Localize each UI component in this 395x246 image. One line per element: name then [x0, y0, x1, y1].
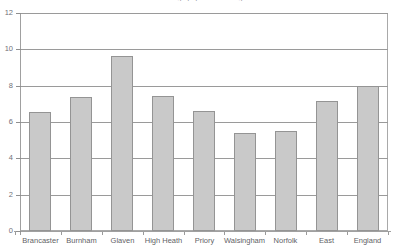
x-axis-tick	[306, 232, 307, 235]
x-axis-tick-label: Glaven	[102, 236, 143, 245]
bar	[275, 131, 297, 231]
bar	[29, 112, 51, 231]
bar	[316, 101, 338, 231]
bar	[111, 56, 133, 231]
gridline	[20, 13, 388, 14]
bar	[193, 111, 215, 231]
y-axis-tick	[16, 195, 21, 196]
x-axis-tick	[20, 232, 21, 235]
x-axis-tick	[102, 232, 103, 235]
x-axis-tick-label: Burnham	[61, 236, 102, 245]
y-axis-tick-label: 6	[0, 118, 13, 126]
y-axis-tick	[16, 122, 21, 123]
x-axis-tick-label: Walsingham	[224, 236, 265, 245]
x-axis-tick	[347, 232, 348, 235]
y-axis-tick-label: 4	[0, 154, 13, 162]
x-axis-tick	[184, 232, 185, 235]
y-axis-tick	[16, 13, 21, 14]
x-axis-tick-label: Priory	[184, 236, 225, 245]
y-axis-tick	[16, 49, 21, 50]
y-axis-tick-label: 12	[0, 9, 13, 17]
bar	[357, 86, 379, 231]
y-axis-tick-label: 8	[0, 82, 13, 90]
y-axis-tick-label: 2	[0, 191, 13, 199]
bar	[234, 133, 256, 231]
y-axis-tick	[16, 86, 21, 87]
x-axis-tick	[224, 232, 225, 235]
bar	[152, 96, 174, 231]
x-axis-tick-label: England	[347, 236, 388, 245]
gridline	[20, 49, 388, 50]
gridline	[20, 86, 388, 87]
x-axis-line	[14, 231, 391, 232]
bar	[70, 97, 92, 231]
chart-title: Percentage population change	[0, 0, 395, 1]
x-axis-tick	[15, 232, 16, 235]
x-axis-tick	[388, 232, 389, 235]
x-axis-tick-label: East	[306, 236, 347, 245]
x-axis-tick-label: High Heath	[143, 236, 184, 245]
bar-chart: Percentage population change 024681012 B…	[0, 0, 395, 246]
y-axis-tick-label: 0	[0, 227, 13, 235]
x-axis-tick	[265, 232, 266, 235]
y-axis-tick	[16, 158, 21, 159]
x-axis-tick-label: Brancaster	[20, 236, 61, 245]
x-axis-tick-label: Norfolk	[265, 236, 306, 245]
x-axis-tick	[143, 232, 144, 235]
x-axis-tick	[61, 232, 62, 235]
y-axis-tick-label: 10	[0, 45, 13, 53]
